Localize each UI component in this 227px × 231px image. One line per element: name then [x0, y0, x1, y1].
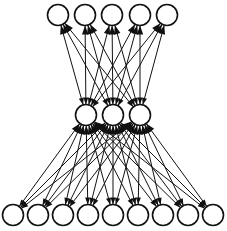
- node-output-layer-3: [102, 5, 123, 26]
- node-hidden-layer-3: [130, 105, 151, 126]
- node-output-layer-2: [75, 5, 96, 26]
- node-input-layer-4: [78, 205, 99, 226]
- node-input-layer-6: [128, 205, 149, 226]
- node-input-layer-3: [53, 205, 74, 226]
- node-output-layer-5: [157, 5, 178, 26]
- node-hidden-layer-2: [103, 105, 124, 126]
- node-input-layer-5: [103, 205, 124, 226]
- neural-network-diagram: [0, 0, 227, 231]
- node-hidden-layer-1: [76, 105, 97, 126]
- node-input-layer-1: [3, 205, 24, 226]
- node-output-layer-4: [130, 5, 151, 26]
- node-input-layer-8: [178, 205, 199, 226]
- node-input-layer-2: [28, 205, 49, 226]
- node-output-layer-1: [48, 5, 69, 26]
- node-input-layer-9: [203, 205, 224, 226]
- neural-network-canvas: [0, 0, 227, 231]
- node-input-layer-7: [153, 205, 174, 226]
